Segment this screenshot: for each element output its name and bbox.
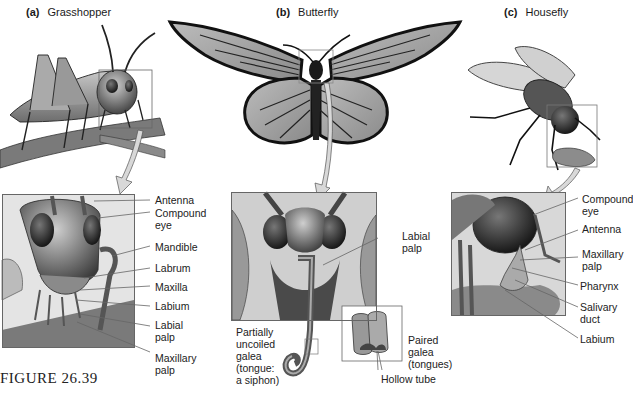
grasshopper-detail-frame — [2, 194, 135, 348]
panel-c-name: Housefly — [525, 6, 568, 18]
label-c-maxillary-palp: Maxillary palp — [582, 248, 623, 272]
label-b-galea-siphon: Partially uncoiled galea (tongue: a siph… — [236, 326, 279, 386]
housefly-detail-frame — [451, 192, 566, 316]
label-c-salivary-duct: Salivary duct — [580, 301, 617, 325]
butterfly-detail-frame — [231, 192, 377, 321]
grasshopper-illustration — [0, 25, 165, 194]
label-b-labial-palp: Labial palp — [402, 230, 430, 254]
panel-c-letter: (c) — [504, 6, 517, 18]
label-a-compound-eye: Compound eye — [155, 207, 206, 231]
label-c-antenna: Antenna — [582, 223, 621, 235]
label-c-labium: Labium — [580, 333, 614, 345]
label-a-labrum: Labrum — [155, 262, 191, 274]
panel-c-title: (c)Housefly — [504, 6, 568, 18]
panel-b-name: Butterfly — [298, 6, 338, 18]
panel-a-title: (a)Grasshopper — [26, 6, 111, 18]
housefly-illustration — [468, 47, 600, 202]
label-a-maxillary-palp: Maxillary palp — [155, 352, 196, 376]
label-a-antenna: Antenna — [155, 194, 194, 206]
label-c-compound-eye: Compound eye — [582, 193, 633, 217]
butterfly-illustration — [170, 22, 460, 200]
figure-caption: FIGURE 26.39 — [0, 370, 98, 387]
label-a-maxilla: Maxilla — [155, 281, 188, 293]
panel-a-letter: (a) — [26, 6, 39, 18]
label-a-labium: Labium — [155, 300, 189, 312]
panel-a-name: Grasshopper — [47, 6, 111, 18]
panel-b-letter: (b) — [276, 6, 290, 18]
label-a-mandible: Mandible — [155, 241, 198, 253]
label-b-paired-galea: Paired galea (tongues) — [408, 334, 452, 370]
label-b-hollow-tube: Hollow tube — [381, 373, 436, 385]
label-c-pharynx: Pharynx — [580, 280, 619, 292]
panel-b-title: (b)Butterfly — [276, 6, 338, 18]
label-a-labial-palp: Labial palp — [155, 319, 183, 343]
